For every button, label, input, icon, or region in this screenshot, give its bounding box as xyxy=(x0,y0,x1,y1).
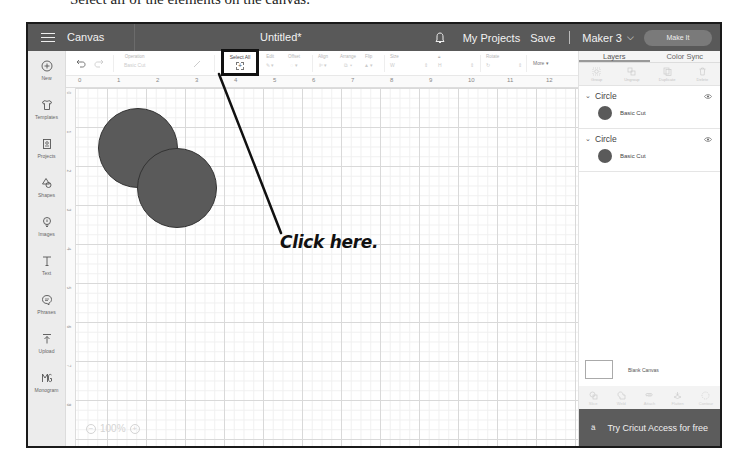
height-stepper[interactable]: ⇕ xyxy=(470,62,474,68)
machine-selector[interactable]: Maker 3 ⌵ xyxy=(582,32,634,44)
sidebar-item-label: Projects xyxy=(37,153,55,159)
sidebar-item-images[interactable]: Images xyxy=(28,207,65,246)
rotate-field[interactable]: Rotate ↻ xyxy=(486,54,499,68)
machine-name: Maker 3 xyxy=(582,32,622,44)
layer-color-swatch[interactable] xyxy=(598,106,612,120)
promo-text: Try Cricut Access for free xyxy=(607,423,708,433)
blank-canvas-item[interactable]: Blank Canvas xyxy=(585,360,659,379)
size-width-field[interactable]: Size W xyxy=(390,54,399,68)
edit-label: Edit xyxy=(266,54,274,59)
contour-button[interactable]: Contour xyxy=(692,386,720,410)
ruler-mark: 1 xyxy=(117,77,120,83)
zoom-level: 100% xyxy=(100,423,126,434)
sidebar-item-projects[interactable]: Projects xyxy=(28,129,65,168)
tab-layers[interactable]: Layers xyxy=(579,51,650,62)
zoom-in-button[interactable]: + xyxy=(130,424,140,434)
cricut-access-banner[interactable]: ä Try Cricut Access for free xyxy=(579,409,720,446)
layer-group: ⌄ Circle Basic Cut xyxy=(579,129,720,172)
rotate-stepper[interactable]: ⇕ xyxy=(518,62,522,68)
action-label: Group xyxy=(591,77,602,82)
layer-header[interactable]: ⌄ Circle xyxy=(579,132,720,146)
ruler-mark: 4 xyxy=(66,248,72,251)
pen-icon[interactable] xyxy=(193,60,201,68)
layer-operation: Basic Cut xyxy=(620,110,646,116)
circle-shape[interactable] xyxy=(137,148,217,228)
bell-icon[interactable] xyxy=(433,31,447,45)
undo-icon[interactable] xyxy=(76,58,86,68)
sidebar-item-upload[interactable]: Upload xyxy=(28,324,65,363)
zoom-control: − 100% + xyxy=(86,423,140,434)
lock-icon[interactable]: 🔒︎ xyxy=(438,54,442,59)
hamburger-icon[interactable] xyxy=(41,33,55,43)
select-all-button[interactable]: Select All + xyxy=(221,49,259,76)
group-button[interactable]: Group xyxy=(579,63,614,85)
chevron-down-icon[interactable]: ⌄ xyxy=(585,92,595,100)
weld-icon xyxy=(617,391,626,400)
flatten-button[interactable]: Flatten xyxy=(664,386,692,410)
sidebar-item-label: Images xyxy=(38,231,54,237)
lightbulb-icon xyxy=(41,216,53,228)
monogram-icon xyxy=(41,372,53,384)
size-height-field[interactable]: 🔒︎ H xyxy=(438,54,442,68)
edit-dropdown[interactable]: Edit ✎ ▾ xyxy=(266,54,274,68)
flip-dropdown[interactable]: Flip ▲ ▾ xyxy=(364,54,373,68)
arrange-dropdown[interactable]: Arrange ⧉ ▾ xyxy=(340,54,356,69)
toolbar-divider xyxy=(113,55,114,72)
ruler-mark: 6 xyxy=(66,326,72,329)
chevron-down-icon[interactable]: ⌄ xyxy=(585,135,595,143)
layer-item[interactable]: Basic Cut xyxy=(579,146,720,166)
attach-button[interactable]: Attach xyxy=(635,386,663,410)
layer-item[interactable]: Basic Cut xyxy=(579,103,720,123)
operation-dropdown[interactable]: Operation Basic Cut xyxy=(124,54,145,68)
operation-label: Operation xyxy=(124,54,145,59)
tab-color-sync[interactable]: Color Sync xyxy=(650,51,721,62)
sidebar-item-shapes[interactable]: Shapes xyxy=(28,168,65,207)
slice-button[interactable]: Slice xyxy=(579,386,607,410)
ruler-mark: 12 xyxy=(546,77,553,83)
select-all-label: Select All xyxy=(224,54,256,60)
panel-tabs: Layers Color Sync xyxy=(579,51,720,63)
sidebar-item-monogram[interactable]: Monogram xyxy=(28,363,65,402)
design-canvas[interactable]: − 100% + xyxy=(76,88,578,446)
save-button[interactable]: Save xyxy=(530,32,555,44)
toolbar-divider xyxy=(526,55,527,72)
sidebar-item-new[interactable]: New xyxy=(28,51,65,90)
layer-name: Circle xyxy=(595,134,617,144)
delete-button[interactable]: Delete xyxy=(685,63,720,85)
attach-icon xyxy=(645,391,654,400)
speech-bubble-icon xyxy=(41,294,53,306)
more-menu-button[interactable]: More ▾ xyxy=(533,60,549,66)
weld-button[interactable]: Weld xyxy=(607,386,635,410)
width-label: W xyxy=(390,62,399,68)
offset-dropdown[interactable]: Offset ◌ ▾ xyxy=(288,54,300,68)
ungroup-button[interactable]: Ungroup xyxy=(614,63,649,85)
make-it-button[interactable]: Make It xyxy=(644,30,712,46)
sidebar-item-text[interactable]: Text xyxy=(28,246,65,285)
sidebar-item-templates[interactable]: Templates xyxy=(28,90,65,129)
my-projects-link[interactable]: My Projects xyxy=(463,32,520,44)
flip-label: Flip xyxy=(364,54,373,59)
access-logo-icon: ä xyxy=(591,423,595,432)
layer-color-swatch[interactable] xyxy=(598,149,612,163)
sidebar-item-label: Phrases xyxy=(37,309,55,315)
action-label: Duplicate xyxy=(659,77,676,82)
action-label: Attach xyxy=(644,401,655,406)
eye-icon[interactable] xyxy=(704,94,712,99)
align-dropdown[interactable]: Align ⊫ ▾ xyxy=(318,54,328,68)
height-label: H xyxy=(438,62,442,68)
duplicate-button[interactable]: Duplicate xyxy=(650,63,685,85)
sidebar-item-phrases[interactable]: Phrases xyxy=(28,285,65,324)
redo-icon[interactable] xyxy=(94,58,104,68)
layer-name: Circle xyxy=(595,91,617,101)
zoom-out-button[interactable]: − xyxy=(86,424,96,434)
vertical-ruler: 0 1 2 3 4 5 6 7 8 xyxy=(66,88,76,446)
sidebar-item-label: Monogram xyxy=(35,387,59,393)
sidebar-item-label: Text xyxy=(42,270,51,276)
layer-header[interactable]: ⌄ Circle xyxy=(579,89,720,103)
toolbar-divider xyxy=(312,55,313,72)
action-label: Delete xyxy=(697,77,709,82)
project-title[interactable]: Untitled* xyxy=(260,24,302,51)
eye-icon[interactable] xyxy=(704,137,712,142)
layer-actions: Group Ungroup Duplicate Delete xyxy=(579,63,720,86)
width-stepper[interactable]: ⇕ xyxy=(424,62,428,68)
